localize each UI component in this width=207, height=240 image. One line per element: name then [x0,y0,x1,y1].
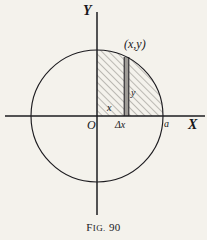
delta-x-label: Δx [115,120,125,130]
caption-smallcaps: IG. [93,223,106,233]
y-axis-label: Y [83,4,92,18]
figure-drawing [0,0,207,240]
figure-caption: FIG. 90 [0,221,207,233]
delta-x-strip [124,57,129,116]
ordinate-label: y [131,88,135,98]
caption-number: 90 [109,221,121,233]
abscissa-label: x [107,103,111,113]
origin-label: O [87,119,96,131]
intercept-a-label: a [164,119,169,129]
point-coordinates-label: (x,y) [124,38,146,50]
figure-container: Y X (x,y) y x O Δx a FIG. 90 [0,0,207,240]
x-axis-label: X [188,118,197,132]
